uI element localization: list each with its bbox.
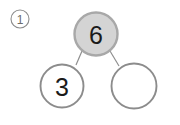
number-bond-problem: 1 6 3 <box>0 0 180 125</box>
whole-node-value: 6 <box>89 21 103 49</box>
part-left-node-value: 3 <box>55 73 69 101</box>
part-right-node-circle[interactable] <box>112 64 157 109</box>
whole-node: 6 <box>75 13 118 56</box>
connector-line-right <box>110 51 119 66</box>
number-bond-diagram: 1 6 3 <box>0 0 180 125</box>
connector-line-left <box>76 51 82 65</box>
problem-number-label: 1 <box>17 13 24 27</box>
part-right-node[interactable] <box>112 64 157 109</box>
part-left-node: 3 <box>41 65 84 108</box>
problem-number-marker: 1 <box>11 10 29 28</box>
